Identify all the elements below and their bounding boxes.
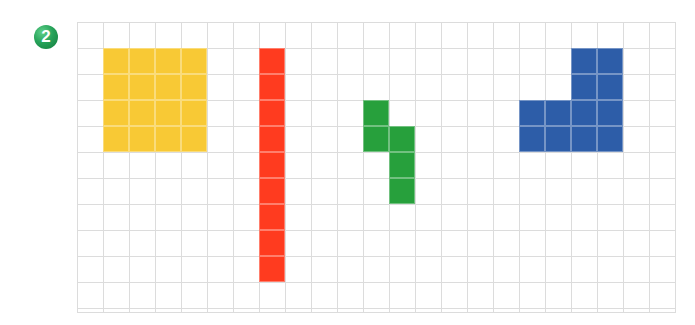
blue-shape-cell (597, 126, 623, 152)
red-bar-cell (259, 152, 285, 178)
blue-shape-cell (545, 126, 571, 152)
yellow-square-cell (129, 48, 155, 74)
square-grid (77, 22, 676, 313)
yellow-square-cell (155, 74, 181, 100)
blue-shape-cell (597, 74, 623, 100)
yellow-square-cell (129, 100, 155, 126)
step-number-badge: 2 (34, 25, 58, 49)
red-bar-cell (259, 230, 285, 256)
yellow-square-cell (155, 126, 181, 152)
green-shape-cell (389, 178, 415, 204)
red-bar-cell (259, 48, 285, 74)
red-bar-cell (259, 74, 285, 100)
yellow-square-cell (181, 126, 207, 152)
red-bar-cell (259, 126, 285, 152)
yellow-square-cell (103, 74, 129, 100)
yellow-square-cell (103, 48, 129, 74)
yellow-square-cell (155, 48, 181, 74)
green-shape-cell (363, 100, 389, 126)
yellow-square-cell (155, 100, 181, 126)
yellow-square-cell (103, 126, 129, 152)
red-bar-cell (259, 256, 285, 282)
green-shape-cell (389, 126, 415, 152)
green-shape-cell (389, 152, 415, 178)
yellow-square-cell (129, 126, 155, 152)
blue-shape-cell (545, 100, 571, 126)
yellow-square-cell (181, 48, 207, 74)
red-bar-cell (259, 178, 285, 204)
yellow-square-cell (181, 100, 207, 126)
blue-shape-cell (571, 126, 597, 152)
blue-shape-cell (571, 48, 597, 74)
blue-shape-cell (597, 100, 623, 126)
blue-shape-cell (519, 100, 545, 126)
yellow-square-cell (181, 74, 207, 100)
blue-shape-cell (597, 48, 623, 74)
red-bar-cell (259, 100, 285, 126)
blue-shape-cell (571, 74, 597, 100)
yellow-square-cell (129, 74, 155, 100)
green-shape-cell (363, 126, 389, 152)
yellow-square-cell (103, 100, 129, 126)
blue-shape-cell (571, 100, 597, 126)
blue-shape-cell (519, 126, 545, 152)
red-bar-cell (259, 204, 285, 230)
